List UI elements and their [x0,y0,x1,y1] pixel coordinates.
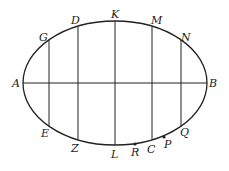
label-C: C [147,143,156,156]
label-P: P [163,138,172,151]
label-R: R [130,146,139,159]
label-D: D [70,14,80,27]
label-G: G [39,31,48,44]
label-K: K [110,8,120,21]
label-A: A [11,77,20,90]
label-Q: Q [180,126,189,139]
label-N: N [180,31,191,44]
label-Z: Z [70,142,79,155]
label-B: B [208,77,217,90]
label-L: L [110,148,118,161]
label-M: M [150,14,163,27]
ellipse-diagram: A B G D K M N E Z L R C P Q [0,0,229,171]
label-E: E [40,127,49,140]
